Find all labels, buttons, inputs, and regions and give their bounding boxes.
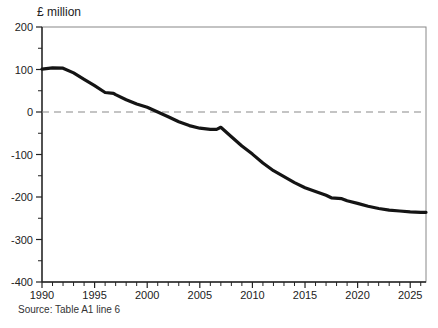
svg-text:0: 0 bbox=[27, 106, 33, 118]
chart-figure: 2001000-100-200-300-40019901995200020052… bbox=[0, 0, 438, 328]
svg-text:2020: 2020 bbox=[345, 289, 369, 301]
svg-text:-100: -100 bbox=[11, 149, 33, 161]
source-note: Source: Table A1 line 6 bbox=[18, 304, 120, 315]
svg-text:200: 200 bbox=[15, 21, 33, 33]
svg-text:2015: 2015 bbox=[293, 289, 317, 301]
svg-text:1990: 1990 bbox=[30, 289, 54, 301]
line-chart: 2001000-100-200-300-40019901995200020052… bbox=[0, 0, 438, 328]
svg-text:-300: -300 bbox=[11, 234, 33, 246]
svg-text:2025: 2025 bbox=[398, 289, 422, 301]
svg-text:2010: 2010 bbox=[240, 289, 264, 301]
svg-text:2000: 2000 bbox=[135, 289, 159, 301]
svg-text:-400: -400 bbox=[11, 276, 33, 288]
svg-text:-200: -200 bbox=[11, 191, 33, 203]
chart-title: £ million bbox=[37, 5, 81, 19]
svg-text:100: 100 bbox=[15, 64, 33, 76]
svg-text:1995: 1995 bbox=[82, 289, 106, 301]
svg-text:2005: 2005 bbox=[188, 289, 212, 301]
